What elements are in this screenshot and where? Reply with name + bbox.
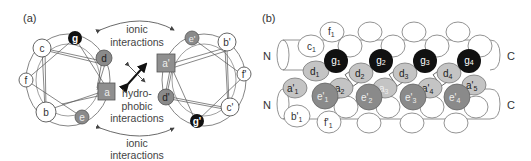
left-helical-wheel: g c d f a b e (19, 31, 115, 126)
ionic-label-bottom-2: interactions (110, 149, 164, 161)
hydrophobic-label-3: interactions (110, 112, 164, 124)
terminus-c-top: C (507, 50, 515, 62)
ionic-label-top-1: ionic (126, 23, 148, 35)
svg-text:f': f' (242, 69, 247, 80)
svg-text:e': e' (189, 34, 196, 44)
svg-text:g: g (72, 33, 78, 44)
svg-text:b': b' (223, 37, 231, 48)
panel-a: (a) ionic interactions ionic interaction… (19, 12, 251, 161)
panel-b-label: (b) (262, 12, 275, 24)
svg-text:a: a (104, 87, 110, 98)
right-helical-wheel: e' b' a' f' d' c' g' (157, 31, 251, 128)
coiled-coil-figure: (a) ionic interactions ionic interaction… (0, 0, 531, 161)
svg-text:d': d' (162, 92, 170, 103)
svg-text:c': c' (227, 102, 234, 113)
terminus-n-top: N (263, 50, 271, 62)
terminus-c-bottom: C (507, 99, 515, 111)
svg-text:a': a' (162, 58, 170, 69)
svg-text:f: f (25, 75, 28, 86)
svg-text:e: e (79, 112, 85, 123)
ionic-label-top-2: interactions (110, 36, 164, 48)
hydrophobic-label-1: hydro- (122, 87, 152, 99)
svg-text:g': g' (193, 116, 202, 127)
terminus-n-bottom: N (263, 99, 271, 111)
ionic-arrow-bottom (100, 128, 174, 136)
panel-b: (b) N N C C c1 f1 (262, 12, 515, 133)
ionic-label-bottom-1: ionic (126, 137, 148, 149)
svg-text:b: b (43, 107, 49, 118)
svg-text:d: d (101, 53, 107, 64)
panel-a-label: (a) (23, 12, 36, 24)
svg-text:c: c (40, 43, 45, 54)
hydrophobic-label-2: phobic (122, 100, 153, 112)
